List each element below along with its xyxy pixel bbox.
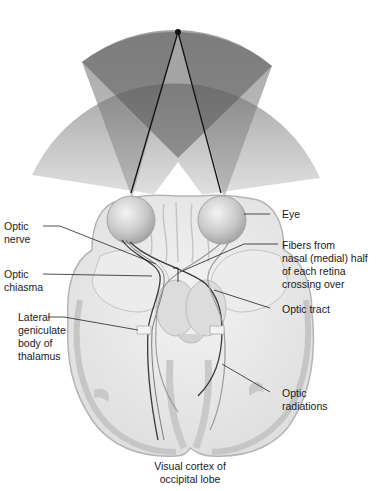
label-lateral-geniculate: Lateral geniculate body of thalamus [18, 311, 66, 363]
label-optic-nerve: Optic nerve [4, 220, 30, 246]
label-optic-tract: Optic tract [282, 303, 330, 316]
label-eye: Eye [282, 208, 300, 221]
visual-field [32, 29, 320, 200]
label-fibers-crossing: Fibers from nasal (medial) half of each … [282, 239, 368, 291]
left-lgn [137, 326, 151, 334]
fixation-point [175, 29, 181, 35]
left-eye [107, 196, 155, 244]
visual-pathway-diagram: Optic nerve Optic chiasma Lateral genicu… [0, 0, 387, 491]
right-lgn [210, 326, 224, 334]
right-eye [198, 196, 246, 244]
label-optic-chiasma: Optic chiasma [4, 268, 43, 294]
label-visual-cortex: Visual cortex of occipital lobe [140, 460, 240, 486]
brain [68, 195, 314, 456]
label-optic-radiations: Optic radiations [282, 387, 328, 413]
